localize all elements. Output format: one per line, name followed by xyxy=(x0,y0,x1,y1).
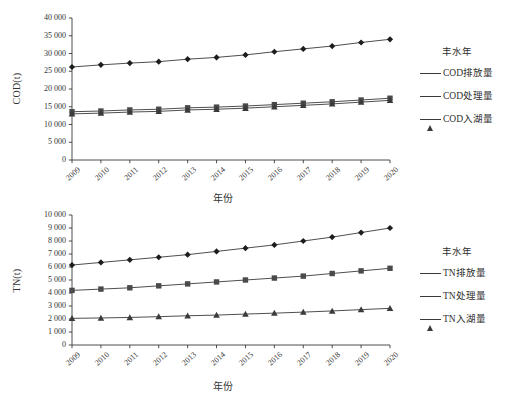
cod-y-tick-label: 5 000 xyxy=(10,137,66,146)
data-point-square[interactable] xyxy=(243,277,248,282)
chart-panel-tn: TN(t) 年份 丰水年 TN排放量 TN处理量 TN入湖量 xyxy=(0,193,507,405)
tn-series-0 xyxy=(69,225,393,268)
tn-line-0 xyxy=(72,228,390,265)
cod-legend-label-emission: COD排放量 xyxy=(443,69,493,79)
data-point-square[interactable] xyxy=(69,288,74,293)
data-point-diamond[interactable] xyxy=(242,52,248,58)
data-point-diamond[interactable] xyxy=(185,252,191,258)
tn-series-2 xyxy=(69,305,394,321)
cod-y-tick-label: 30 000 xyxy=(10,49,66,58)
data-point-square[interactable] xyxy=(156,283,161,288)
cod-y-tick-label: 0 xyxy=(10,155,66,164)
data-point-diamond[interactable] xyxy=(98,62,104,68)
data-point-diamond[interactable] xyxy=(271,49,277,55)
cod-y-tick-label: 10 000 xyxy=(10,120,66,129)
tn-legend-label-inflow: TN入湖量 xyxy=(443,315,486,325)
tn-legend-item-treatment[interactable]: TN处理量 xyxy=(420,292,486,302)
cod-legend: 丰水年 COD排放量 COD处理量 COD入湖量 xyxy=(420,48,493,138)
tn-y-tick-label: 8 000 xyxy=(10,236,66,245)
square-marker-icon xyxy=(420,292,441,302)
tn-legend-label-treatment: TN处理量 xyxy=(443,292,486,302)
cod-y-tick-label: 35 000 xyxy=(10,31,66,40)
data-point-diamond[interactable] xyxy=(69,64,75,70)
data-point-square[interactable] xyxy=(98,286,103,291)
figure-root: COD(t) 年份 丰水年 COD排放量 COD处理量 COD入湖量 xyxy=(0,0,507,405)
tn-legend: 丰水年 TN排放量 TN处理量 TN入湖量 xyxy=(420,248,486,338)
data-point-square[interactable] xyxy=(272,275,277,280)
tn-y-tick-label: 4 000 xyxy=(10,288,66,297)
data-point-diamond[interactable] xyxy=(127,60,133,66)
triangle-marker-icon xyxy=(420,315,441,325)
cod-legend-label-treatment: COD处理量 xyxy=(443,92,493,102)
cod-line-2 xyxy=(72,100,390,113)
data-point-diamond[interactable] xyxy=(358,229,364,235)
data-point-diamond[interactable] xyxy=(387,225,393,231)
data-point-diamond[interactable] xyxy=(213,248,219,254)
cod-legend-item-inflow[interactable]: COD入湖量 xyxy=(420,115,493,125)
tn-series-1 xyxy=(69,266,392,294)
tn-x-axis-title: 年份 xyxy=(213,378,233,393)
tn-y-tick-label: 0 xyxy=(10,340,66,349)
diamond-marker-icon xyxy=(420,69,441,79)
tn-line-2 xyxy=(72,308,390,318)
data-point-square[interactable] xyxy=(358,268,363,273)
data-point-square[interactable] xyxy=(185,281,190,286)
cod-legend-item-treatment[interactable]: COD处理量 xyxy=(420,92,493,102)
tn-y-tick-label: 3 000 xyxy=(10,301,66,310)
diamond-marker-icon xyxy=(420,269,441,279)
data-point-square[interactable] xyxy=(387,266,392,271)
tn-y-tick-label: 9 000 xyxy=(10,223,66,232)
data-point-diamond[interactable] xyxy=(98,259,104,265)
data-point-square[interactable] xyxy=(214,279,219,284)
data-point-square[interactable] xyxy=(127,285,132,290)
data-point-diamond[interactable] xyxy=(213,54,219,60)
cod-y-tick-label: 25 000 xyxy=(10,66,66,75)
triangle-marker-icon xyxy=(420,115,441,125)
tn-legend-title: 丰水年 xyxy=(442,248,486,258)
tn-y-tick-label: 1 000 xyxy=(10,327,66,336)
cod-line-1 xyxy=(72,98,390,111)
tn-legend-item-emission[interactable]: TN排放量 xyxy=(420,269,486,279)
data-point-diamond[interactable] xyxy=(156,59,162,65)
chart-panel-cod: COD(t) 年份 丰水年 COD排放量 COD处理量 COD入湖量 xyxy=(0,0,507,200)
cod-series-1 xyxy=(69,96,392,115)
tn-y-tick-label: 5 000 xyxy=(10,275,66,284)
tn-y-tick-label: 7 000 xyxy=(10,249,66,258)
cod-legend-item-emission[interactable]: COD排放量 xyxy=(420,69,493,79)
cod-y-tick-label: 15 000 xyxy=(10,102,66,111)
data-point-diamond[interactable] xyxy=(242,245,248,251)
data-point-diamond[interactable] xyxy=(185,56,191,62)
data-point-square[interactable] xyxy=(301,273,306,278)
tn-legend-item-inflow[interactable]: TN入湖量 xyxy=(420,315,486,325)
cod-y-tick-label: 40 000 xyxy=(10,13,66,22)
data-point-diamond[interactable] xyxy=(300,238,306,244)
tn-y-tick-label: 6 000 xyxy=(10,262,66,271)
data-point-diamond[interactable] xyxy=(300,46,306,52)
cod-legend-title: 丰水年 xyxy=(442,48,493,58)
tn-line-1 xyxy=(72,268,390,290)
cod-line-0 xyxy=(72,39,390,67)
data-point-diamond[interactable] xyxy=(127,257,133,263)
data-point-diamond[interactable] xyxy=(329,43,335,49)
data-point-diamond[interactable] xyxy=(329,234,335,240)
data-point-diamond[interactable] xyxy=(358,39,364,45)
square-marker-icon xyxy=(420,92,441,102)
cod-y-tick-label: 20 000 xyxy=(10,84,66,93)
cod-legend-label-inflow: COD入湖量 xyxy=(443,115,493,125)
data-point-diamond[interactable] xyxy=(271,242,277,248)
data-point-square[interactable] xyxy=(329,271,334,276)
tn-legend-label-emission: TN排放量 xyxy=(443,269,486,279)
tn-y-tick-label: 2 000 xyxy=(10,314,66,323)
cod-series-0 xyxy=(69,36,393,70)
tn-y-tick-label: 10 000 xyxy=(10,210,66,219)
data-point-diamond[interactable] xyxy=(387,36,393,42)
data-point-diamond[interactable] xyxy=(156,254,162,260)
